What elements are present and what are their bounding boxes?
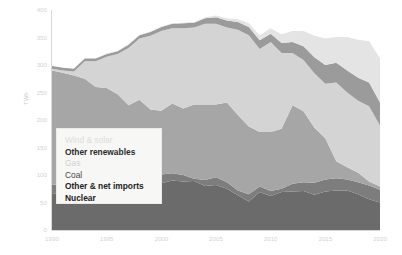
legend-item-wind-solar: Wind & solar <box>65 135 161 147</box>
x-tick-1995: 1995 <box>100 235 114 242</box>
legend-item-nuclear: Nuclear <box>65 193 161 205</box>
y-tick-300: 300 <box>37 61 48 68</box>
y-tick-350: 350 <box>37 34 48 41</box>
x-tick-1990: 1990 <box>45 235 59 242</box>
y-tick-200: 200 <box>37 116 48 123</box>
chart-screenshot: 050100150200250300350400 199019952000200… <box>0 0 402 255</box>
legend-item-coal: Coal <box>65 170 161 182</box>
y-tick-labels: 050100150200250300350400 <box>37 6 48 233</box>
y-tick-50: 50 <box>40 199 47 206</box>
legend-item-other-net-imports: Other & net imports <box>65 181 161 193</box>
legend-item-other-renewables: Other renewables <box>65 147 161 159</box>
y-tick-150: 150 <box>37 144 48 151</box>
y-tick-250: 250 <box>37 89 48 96</box>
y-tick-100: 100 <box>37 171 48 178</box>
x-tick-2010: 2010 <box>264 235 278 242</box>
y-tick-0: 0 <box>44 226 48 233</box>
x-tick-2005: 2005 <box>209 235 223 242</box>
y-axis-title: TWh <box>23 92 29 105</box>
x-tick-2000: 2000 <box>154 235 168 242</box>
x-tick-2015: 2015 <box>318 235 332 242</box>
chart-legend: Wind & solar Other renewables Gas Coal O… <box>56 128 162 204</box>
legend-item-gas: Gas <box>65 158 161 170</box>
y-tick-400: 400 <box>37 6 48 13</box>
x-tick-labels: 1990199520002005201020152020 <box>45 235 387 242</box>
x-tick-2020: 2020 <box>373 235 387 242</box>
